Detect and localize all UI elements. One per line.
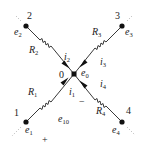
branch-1: [12, 74, 74, 136]
dotted-lead-1: [12, 127, 21, 136]
node-3-label: 3: [115, 10, 120, 21]
node-1-label: 1: [14, 107, 19, 118]
dotted-lead-4: [127, 127, 135, 135]
node-2-dot: [23, 23, 28, 28]
resistor-r3-icon: [95, 41, 106, 50]
e2-label: e2: [14, 26, 22, 38]
node-0-dot: [72, 72, 77, 77]
minus-sign: −: [79, 96, 85, 107]
r3-label: R3: [91, 26, 101, 38]
dotted-lead-3: [127, 15, 133, 21]
branch-2: [15, 15, 74, 74]
e1-label: e1: [25, 124, 33, 136]
e3-label: e3: [125, 26, 133, 38]
i3-label: i3: [100, 56, 106, 68]
dotted-lead-2: [15, 15, 21, 21]
r2-label: R2: [28, 44, 38, 56]
e0-label: e0: [81, 67, 89, 79]
node-4-dot: [119, 119, 124, 124]
current-arrow-i4-icon: [80, 81, 88, 89]
circuit-diagram: 2 3 1 4 0 e2 e3 e1 e4 e0 R2 R3 R1 R4 i2 …: [0, 0, 145, 149]
resistor-r1-icon: [40, 101, 51, 110]
e10-label: e10: [58, 113, 69, 125]
resistor-r2-icon: [40, 39, 51, 48]
node-4-label: 4: [126, 105, 131, 116]
i1-label: i1: [69, 86, 75, 98]
e4-label: e4: [112, 124, 120, 136]
r1-label: R1: [27, 86, 37, 98]
i4-label: i4: [100, 78, 107, 90]
node-2-label: 2: [27, 10, 32, 21]
plus-sign: +: [42, 134, 48, 145]
i2-label: i2: [64, 51, 70, 63]
node-0-label: 0: [59, 69, 64, 80]
node-3-dot: [119, 23, 124, 28]
